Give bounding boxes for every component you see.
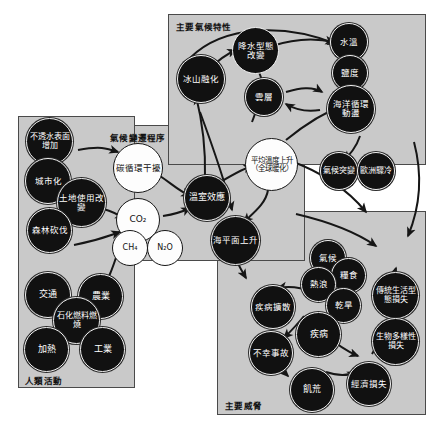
node-mean-temp[interactable]: 平均溫度上升（全球暖化）	[245, 138, 298, 191]
edge-precip-watertemp	[272, 39, 334, 46]
node-accidents[interactable]: 不幸事故	[249, 331, 293, 375]
node-economic-loss[interactable]: 經濟損失	[347, 362, 391, 406]
node-abrupt-climate[interactable]: 氣候突變	[320, 152, 358, 190]
edge-ocean-clouds	[286, 104, 320, 111]
node-biodiversity-loss[interactable]: 生物多樣性損失	[372, 318, 419, 365]
node-europe-cold[interactable]: 歐洲驟冷	[357, 152, 395, 190]
node-heating[interactable]: 加熱	[24, 327, 69, 372]
node-clouds[interactable]: 雲層	[245, 78, 283, 116]
edge-clouds-ocean	[286, 88, 322, 92]
node-deforestation[interactable]: 森林砍伐	[27, 208, 72, 253]
node-famine[interactable]: 飢荒	[290, 368, 334, 412]
node-precip-change[interactable]: 降水型態改變	[232, 27, 279, 74]
diagram-canvas: 主要氣候特性 氣候變遷程序 人類活動 主要威脅	[0, 0, 440, 430]
node-ch4[interactable]: CH₄	[112, 230, 148, 266]
node-industry[interactable]: 工業	[80, 327, 125, 372]
node-n2o[interactable]: N₂O	[147, 230, 183, 266]
node-disease[interactable]: 疾病	[296, 312, 341, 357]
edge-greenhouse-icemelt	[196, 96, 205, 178]
node-greenhouse[interactable]: 溫室效應	[184, 175, 230, 221]
edge-features-threats	[408, 142, 419, 236]
node-disease-spread[interactable]: 疾病擴散	[251, 285, 295, 329]
node-ice-melt[interactable]: 冰山融化	[177, 55, 225, 103]
node-carbon-cycle[interactable]: 碳循環干擾	[113, 143, 163, 193]
node-ocean-circulation[interactable]: 海洋循環動盪	[327, 85, 375, 133]
edge-meantemp-sealevel	[244, 190, 268, 222]
node-sea-level[interactable]: 海平面上升	[211, 216, 260, 265]
node-tradition-loss[interactable]: 傳統生活型態損失	[372, 272, 419, 319]
edge-impervious-carbon	[78, 148, 118, 152]
